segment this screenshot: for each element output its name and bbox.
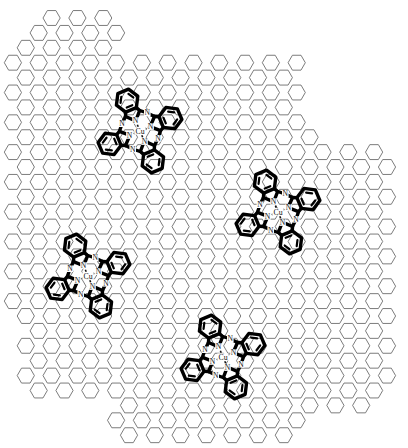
lattice-hexagon <box>4 204 21 219</box>
lattice-hexagon <box>288 294 305 309</box>
lattice-hexagon <box>133 323 150 338</box>
lattice-hexagon <box>43 368 60 383</box>
lattice-hexagon <box>120 428 137 443</box>
svg-text:N: N <box>225 363 231 372</box>
lattice-hexagon <box>288 264 305 279</box>
lattice-hexagon <box>4 264 21 279</box>
svg-text:N: N <box>148 122 154 131</box>
lattice-hexagon <box>120 219 137 234</box>
lattice-hexagon <box>366 294 383 309</box>
lattice-hexagon <box>82 55 99 70</box>
lattice-hexagon <box>82 323 99 338</box>
bridging-nitrogen-atom-label: N <box>77 290 84 299</box>
lattice-hexagon <box>288 323 305 338</box>
lattice-hexagon <box>378 309 395 324</box>
lattice-hexagon <box>30 323 47 338</box>
lattice-hexagon <box>30 55 47 70</box>
lattice-hexagon <box>262 55 279 70</box>
lattice-hexagon <box>211 174 228 189</box>
lattice-hexagon <box>288 115 305 130</box>
lattice-hexagon <box>198 428 215 443</box>
lattice-hexagon <box>172 398 189 413</box>
lattice-hexagon <box>211 145 228 160</box>
svg-text:N: N <box>93 253 99 262</box>
lattice-hexagon <box>224 70 241 85</box>
lattice-hexagon <box>69 160 86 175</box>
aromatic-double-bond <box>244 229 250 233</box>
lattice-hexagon <box>378 219 395 234</box>
lattice-hexagon <box>69 309 86 324</box>
lattice-hexagon <box>288 353 305 368</box>
lattice-hexagon <box>340 383 357 398</box>
lattice-hexagon <box>56 55 73 70</box>
lattice-hexagon <box>237 264 254 279</box>
lattice-hexagon <box>133 294 150 309</box>
lattice-hexagon <box>224 309 241 324</box>
nitrogen-atom-label: N <box>215 342 222 351</box>
lattice-hexagon <box>146 428 163 443</box>
lattice-hexagon <box>17 338 34 353</box>
lattice-hexagon <box>17 309 34 324</box>
lattice-hexagon <box>172 160 189 175</box>
lattice-hexagon <box>17 160 34 175</box>
lattice-hexagon <box>378 368 395 383</box>
aromatic-double-bond <box>306 191 312 195</box>
lattice-hexagon <box>56 85 73 100</box>
lattice-hexagon <box>262 323 279 338</box>
lattice-hexagon <box>95 160 112 175</box>
lattice-hexagon <box>275 309 292 324</box>
bridging-nitrogen-atom-label: N <box>92 253 99 262</box>
lattice-hexagon <box>146 338 163 353</box>
lattice-hexagon <box>340 145 357 160</box>
lattice-hexagon <box>249 100 266 115</box>
lattice-hexagon <box>185 234 202 249</box>
lattice-hexagon <box>237 294 254 309</box>
lattice-hexagon <box>146 398 163 413</box>
lattice-hexagon <box>69 40 86 55</box>
lattice-hexagon <box>275 70 292 85</box>
lattice-hexagon <box>211 264 228 279</box>
lattice-hexagon <box>353 249 370 264</box>
lattice-hexagon <box>275 398 292 413</box>
lattice-hexagon <box>172 249 189 264</box>
lattice-hexagon <box>327 338 344 353</box>
lattice-hexagon <box>146 368 163 383</box>
lattice-hexagon <box>185 264 202 279</box>
lattice-hexagon <box>43 160 60 175</box>
lattice-hexagon <box>17 249 34 264</box>
lattice-hexagon <box>224 130 241 145</box>
lattice-hexagon <box>237 174 254 189</box>
bridging-nitrogen-atom-label: N <box>155 134 162 143</box>
lattice-hexagon <box>198 189 215 204</box>
lattice-hexagon <box>4 294 21 309</box>
lattice-hexagon <box>211 234 228 249</box>
lattice-hexagon <box>378 249 395 264</box>
lattice-hexagon <box>288 85 305 100</box>
lattice-hexagon <box>340 264 357 279</box>
aromatic-double-bond <box>251 336 257 340</box>
lattice-hexagon <box>353 368 370 383</box>
lattice-hexagon <box>159 174 176 189</box>
lattice-hexagon <box>146 189 163 204</box>
lattice-hexagon <box>69 338 86 353</box>
lattice-hexagon <box>224 189 241 204</box>
lattice-hexagon <box>262 383 279 398</box>
lattice-hexagon <box>185 294 202 309</box>
lattice-hexagon <box>159 85 176 100</box>
lattice-hexagon <box>288 174 305 189</box>
lattice-hexagon <box>211 413 228 428</box>
svg-text:Cu: Cu <box>273 208 282 217</box>
lattice-hexagon <box>30 204 47 219</box>
lattice-hexagon <box>82 353 99 368</box>
benzene-ring <box>138 147 167 176</box>
lattice-hexagon <box>211 85 228 100</box>
lattice-hexagon <box>327 219 344 234</box>
lattice-hexagon <box>301 130 318 145</box>
lattice-hexagon <box>275 160 292 175</box>
svg-text:N: N <box>231 348 237 357</box>
lattice-hexagon <box>159 294 176 309</box>
lattice-hexagon <box>30 383 47 398</box>
lattice-hexagon <box>30 264 47 279</box>
lattice-hexagon <box>172 338 189 353</box>
lattice-hexagon <box>366 383 383 398</box>
